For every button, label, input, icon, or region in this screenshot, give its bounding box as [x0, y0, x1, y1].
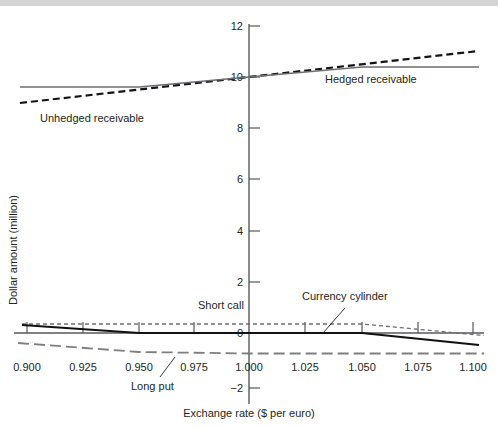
x-ticklabel-1000: 1.000 — [235, 361, 263, 373]
currency-cylinder-leader-line — [323, 308, 345, 333]
x-ticklabel-0950: 0.950 — [125, 361, 153, 373]
y-ticklabel-4: 4 — [237, 225, 243, 237]
chart-canvas: 12 10 8 6 4 2 0 −2 0.900 0.925 0.950 0.9… — [0, 0, 498, 428]
y-ticklabel-12: 12 — [231, 20, 243, 32]
label-short-call: Short call — [198, 299, 244, 311]
chart-figure: 12 10 8 6 4 2 0 −2 0.900 0.925 0.950 0.9… — [0, 0, 498, 428]
x-ticklabel-1100: 1.100 — [459, 361, 487, 373]
series-long-put — [18, 343, 484, 354]
annotation-labels: Unhedged receivable Hedged receivable Sh… — [40, 73, 417, 392]
long-put-leader-line — [160, 357, 175, 377]
x-ticklabel-1075: 1.075 — [404, 361, 432, 373]
x-axis-title: Exchange rate ($ per euro) — [183, 407, 314, 419]
y-ticklabel-8: 8 — [237, 122, 243, 134]
label-unhedged-receivable: Unhedged receivable — [40, 112, 144, 124]
x-ticklabel-0975: 0.975 — [180, 361, 208, 373]
y-ticklabel-2: 2 — [237, 276, 243, 288]
x-ticklabel-1025: 1.025 — [291, 361, 319, 373]
x-ticklabel-0925: 0.925 — [69, 361, 97, 373]
y-ticklabel-minus-2: −2 — [230, 382, 243, 394]
x-ticklabel-1050: 1.050 — [348, 361, 376, 373]
x-ticklabel-0900: 0.900 — [13, 361, 41, 373]
y-ticklabel-6: 6 — [237, 173, 243, 185]
label-hedged-receivable: Hedged receivable — [325, 73, 417, 85]
long-put-line — [18, 343, 484, 354]
label-currency-cylinder: Currency cylinder — [302, 290, 388, 302]
label-long-put: Long put — [131, 380, 174, 392]
y-axis-title: Dollar amount (million) — [7, 195, 19, 305]
